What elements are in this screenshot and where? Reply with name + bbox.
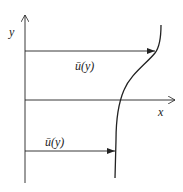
- y-axis-label: y: [8, 25, 15, 39]
- x-axis-label: x: [157, 105, 164, 119]
- upper-velocity-label: ū(y): [75, 59, 94, 73]
- lower-velocity-label: ū(y): [45, 135, 64, 149]
- velocity-profile-diagram: y x ū(y) ū(y): [0, 0, 183, 192]
- velocity-profile-curve: [115, 25, 161, 178]
